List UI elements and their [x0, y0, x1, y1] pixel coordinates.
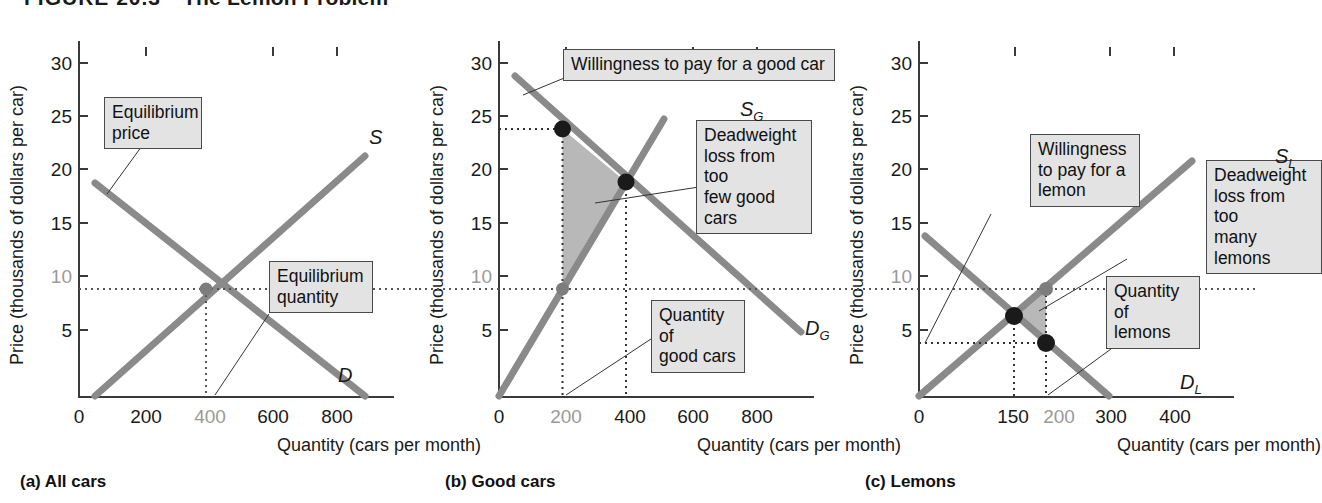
callout-quantity-good-cars: Quantity of good cars [651, 300, 745, 373]
efficient-equilibrium-point-c [1005, 307, 1023, 325]
callout-deadweight-many-lemons: Deadweight loss from too many lemons [1206, 160, 1322, 274]
demand-curve-label-a: D [338, 364, 352, 387]
supply-curve-label-b: SG [740, 98, 763, 124]
callout-willingness-lemon: Willingness to pay for a lemon [1030, 134, 1140, 207]
panel-lemons: 30 25 20 15 10 5 0 150 200 300 400 Price… [840, 0, 1260, 503]
callout-willingness-good-car: Willingness to pay for a good car [563, 49, 835, 81]
callout-equilibrium-quantity: Equilibrium quantity [269, 261, 373, 313]
panel-caption-c: (c) Lemons [865, 472, 956, 492]
supply-curve-label-a: S [369, 126, 382, 149]
leader-quantity-good-cars-b [566, 337, 654, 395]
willingness-point-b [554, 121, 571, 138]
callout-equilibrium-price: Equilibrium price [104, 97, 202, 149]
demand-curve-label-b: DG [805, 317, 830, 343]
callout-deadweight-few-good-cars: Deadweight loss from too few good cars [696, 120, 812, 234]
demand-curve-label-c: DL [1180, 371, 1202, 397]
leader-equilibrium-quantity-a [215, 314, 269, 395]
supply-curve-label-c: SL [1275, 145, 1296, 171]
panel-all-cars: 30 25 20 15 10 5 0 200 400 600 800 Price… [0, 0, 420, 503]
efficient-equilibrium-point-b [618, 174, 635, 191]
leader-willingness-lemon-c [925, 214, 991, 343]
willingness-point-c [1037, 334, 1055, 352]
market-price-point-c [1039, 282, 1053, 296]
panel-good-cars: 30 25 20 15 10 5 0 200 400 600 800 Price… [420, 0, 840, 503]
equilibrium-point-a [200, 283, 213, 296]
actual-quantity-point-b [556, 283, 569, 296]
panel-caption-b: (b) Good cars [445, 472, 556, 492]
curves-overlay-a [0, 0, 419, 459]
deadweight-loss-region-b [563, 129, 627, 289]
panel-caption-a: (a) All cars [20, 472, 106, 492]
callout-quantity-lemons: Quantity of lemons [1106, 276, 1200, 349]
